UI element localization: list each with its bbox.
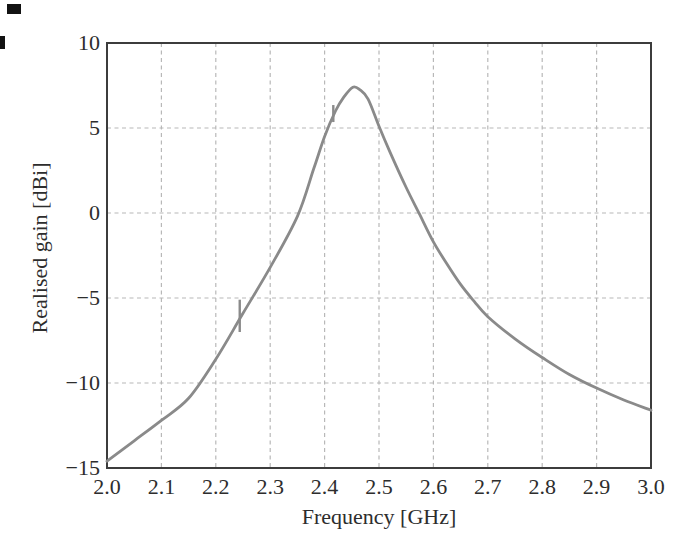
x-axis-label: Frequency [GHz] [302, 504, 457, 529]
figure: 2.02.12.22.32.42.52.62.72.82.93.0 1050−5… [0, 0, 698, 557]
x-tick-label: 2.6 [420, 474, 448, 499]
x-tick-label: 2.5 [365, 474, 393, 499]
y-tick-labels: 1050−5−10−15 [66, 30, 100, 480]
x-tick-label: 2.9 [583, 474, 611, 499]
x-tick-label: 2.7 [474, 474, 502, 499]
y-tick-label: 0 [89, 200, 100, 225]
y-tick-label: 10 [78, 30, 100, 55]
y-tick-label: −10 [66, 370, 100, 395]
gridlines [107, 43, 651, 468]
x-tick-label: 2.4 [311, 474, 339, 499]
y-tick-label: −5 [77, 285, 100, 310]
x-tick-label: 2.8 [528, 474, 556, 499]
x-tick-label: 2.2 [202, 474, 230, 499]
y-tick-label: −15 [66, 455, 100, 480]
x-tick-label: 2.1 [148, 474, 176, 499]
x-tick-label: 3.0 [637, 474, 665, 499]
y-axis-label: Realised gain [dBi] [27, 162, 52, 333]
x-tick-labels: 2.02.12.22.32.42.52.62.72.82.93.0 [93, 474, 665, 499]
x-tick-label: 2.3 [256, 474, 284, 499]
gain-vs-frequency-chart: 2.02.12.22.32.42.52.62.72.82.93.0 1050−5… [0, 0, 698, 557]
y-tick-label: 5 [89, 115, 100, 140]
